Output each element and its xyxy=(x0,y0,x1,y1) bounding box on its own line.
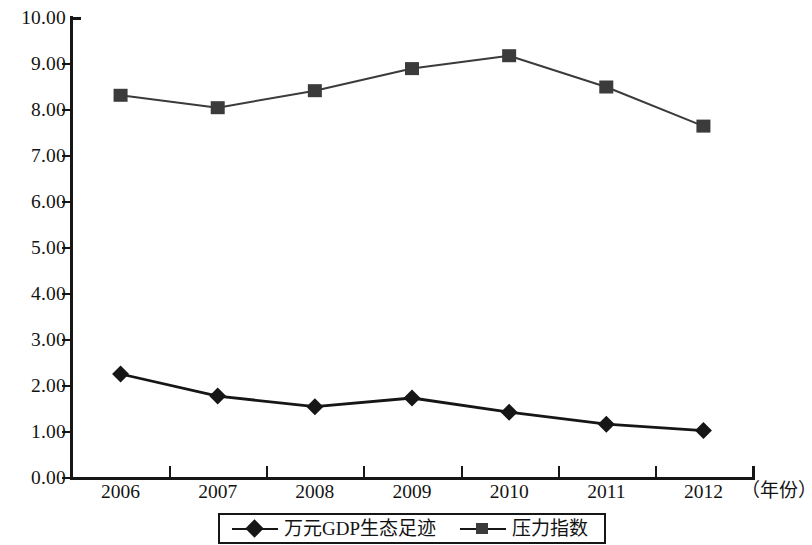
data-point-diamond xyxy=(501,404,518,421)
legend: 万元GDP生态足迹压力指数 xyxy=(218,513,606,544)
legend-label: 万元GDP生态足迹 xyxy=(284,519,436,538)
diamond-marker-icon xyxy=(232,521,278,537)
data-point-square xyxy=(502,49,516,62)
data-point-diamond xyxy=(306,398,323,415)
data-point-diamond xyxy=(404,389,421,406)
data-point-square xyxy=(405,62,419,75)
square-marker-icon xyxy=(460,521,506,537)
square-marker xyxy=(476,523,488,534)
series-layer xyxy=(0,0,812,545)
legend-entry: 万元GDP生态足迹 xyxy=(232,519,436,538)
line-chart: 0.001.002.003.004.005.006.007.008.009.00… xyxy=(0,0,812,545)
data-point-square xyxy=(308,84,322,97)
legend-label: 压力指数 xyxy=(512,519,588,538)
data-point-square xyxy=(114,89,128,102)
series-1 xyxy=(112,366,712,440)
data-point-square xyxy=(211,101,225,114)
data-point-square xyxy=(599,81,613,94)
series-2 xyxy=(114,49,711,132)
data-point-diamond xyxy=(209,388,226,405)
data-point-diamond xyxy=(695,422,712,439)
data-point-diamond xyxy=(112,366,129,383)
diamond-marker xyxy=(245,519,263,537)
data-point-square xyxy=(696,120,710,133)
legend-entry: 压力指数 xyxy=(460,519,588,538)
data-point-diamond xyxy=(598,416,615,433)
